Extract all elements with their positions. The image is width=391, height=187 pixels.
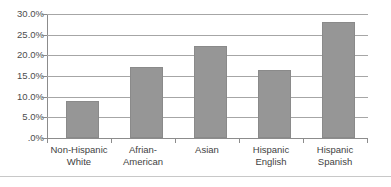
- bar-series: [47, 14, 368, 138]
- x-axis-label-line1: Hispanic: [239, 144, 303, 156]
- x-tick-0: [47, 139, 48, 143]
- x-axis-labels: Non-Hispanic White Afrian- American Asia…: [47, 144, 368, 178]
- y-axis-labels: 30.0% 25.0% 20.0% 15.0% 10.0% 5.0% .0%: [0, 0, 44, 187]
- x-axis-label-line2: White: [47, 156, 111, 168]
- bar-asian[interactable]: [194, 46, 227, 138]
- y-axis-tick-label: 5.0%: [0, 112, 44, 122]
- bar-hispanic-english[interactable]: [258, 70, 291, 138]
- bar-afrian-american[interactable]: [130, 67, 163, 138]
- x-tick-4: [303, 139, 304, 143]
- x-tick-1: [111, 139, 112, 143]
- x-axis-label-line2: Spanish: [303, 156, 367, 168]
- x-axis-label-line1: Hispanic: [303, 144, 367, 156]
- y-axis-tick-label: 15.0%: [0, 71, 44, 81]
- x-axis-label-line1: Afrian-: [111, 144, 175, 156]
- bar-hispanic-spanish[interactable]: [322, 22, 355, 138]
- y-axis-tick-label: 25.0%: [0, 30, 44, 40]
- y-axis-tick-label: 20.0%: [0, 50, 44, 60]
- y-axis-tick-label: .0%: [0, 133, 44, 143]
- y-axis-tick-label: 10.0%: [0, 92, 44, 102]
- x-axis-label-asian: Asian: [175, 144, 239, 156]
- plot-area: [47, 14, 368, 138]
- x-axis-label-line2: English: [239, 156, 303, 168]
- gridline-0-baseline: [47, 138, 368, 139]
- bar-non-hispanic-white[interactable]: [66, 101, 99, 138]
- page-separator-rule: [0, 176, 391, 177]
- y-axis-tick-label: 30.0%: [0, 9, 44, 19]
- x-axis-label-non-hispanic-white: Non-Hispanic White: [47, 144, 111, 167]
- x-axis-label-afrian-american: Afrian- American: [111, 144, 175, 167]
- x-tick-3: [239, 139, 240, 143]
- x-tick-2: [175, 139, 176, 143]
- x-axis-label-hispanic-spanish: Hispanic Spanish: [303, 144, 367, 167]
- x-axis-label-line1: Asian: [175, 144, 239, 156]
- x-axis-label-line2: American: [111, 156, 175, 168]
- x-axis-label-hispanic-english: Hispanic English: [239, 144, 303, 167]
- bar-chart-figure: 30.0% 25.0% 20.0% 15.0% 10.0% 5.0% .0%: [0, 0, 391, 187]
- x-axis-label-line1: Non-Hispanic: [47, 144, 111, 156]
- x-tick-5: [367, 139, 368, 143]
